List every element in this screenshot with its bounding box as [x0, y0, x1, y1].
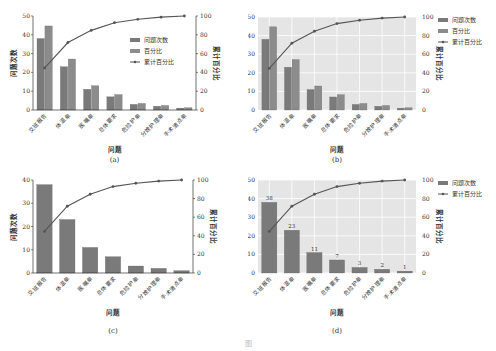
chart-svg: 01020304050020406080100交班报告体温单医嘱单总体要求危险护…	[0, 0, 248, 170]
bar-count	[37, 185, 52, 273]
bar-count	[330, 97, 337, 110]
y-right-axis-label: 累计百分比	[435, 46, 444, 81]
y-right-tick-label: 100	[422, 13, 434, 20]
bar-percent	[161, 105, 168, 110]
bar-count	[375, 106, 382, 110]
x-axis-label: 问题	[330, 145, 344, 154]
bar-count	[352, 104, 359, 110]
legend-bar-swatch	[438, 181, 448, 185]
y-right-tick-label: 20	[197, 250, 205, 257]
x-tick-label: 总体要求	[319, 112, 342, 135]
bar-count	[105, 257, 120, 273]
bar-count	[397, 271, 412, 273]
panel-label: (d)	[332, 327, 342, 335]
bar-count	[262, 39, 269, 110]
x-tick-label: 手术清点单	[382, 112, 409, 139]
y-tick-label: 50	[248, 176, 255, 183]
x-axis-label: 问题	[330, 308, 344, 317]
x-tick-label: 危险护单	[118, 275, 141, 298]
legend-label: 百分比	[452, 27, 470, 35]
y-tick-label: 20	[22, 68, 30, 75]
panel-label: (b)	[332, 156, 342, 164]
y-tick-label: 10	[248, 87, 255, 94]
legend-bar-swatch	[438, 18, 448, 22]
bar-count	[37, 39, 44, 110]
y-right-tick-label: 60	[197, 213, 205, 220]
legend-label: 百分比	[144, 47, 162, 55]
bar-percent	[68, 59, 75, 110]
pareto-chart-b: 01020304050020406080100交班报告体温单医嘱单总体要求危险护…	[248, 0, 496, 170]
bar-count	[151, 268, 166, 273]
y-tick-label: 0	[26, 106, 30, 113]
bar-percent	[360, 103, 367, 110]
y-axis-label: 问题次数	[9, 213, 18, 241]
y-tick-label: 30	[22, 50, 30, 57]
bar-count	[84, 89, 91, 110]
y-tick-label: 40	[22, 176, 30, 183]
chart-svg: 01020304050020406080100交班报告体温单医嘱单总体要求危险护…	[248, 0, 496, 170]
bar-percent	[405, 108, 412, 110]
y-right-tick-label: 80	[422, 32, 430, 39]
y-right-tick-label: 80	[422, 195, 430, 202]
y-tick-label: 50	[22, 12, 30, 19]
bar-count	[284, 67, 291, 110]
y-right-tick-label: 60	[422, 213, 430, 220]
line-marker	[43, 230, 46, 233]
legend-label: 累计百分比	[452, 190, 482, 198]
x-axis-label: 问题	[106, 308, 120, 317]
line-marker	[381, 180, 384, 183]
bar-percent	[138, 103, 145, 110]
line-marker	[43, 67, 46, 70]
line-marker	[313, 193, 316, 196]
line-marker	[157, 180, 160, 183]
y-tick-label: 50	[248, 13, 255, 20]
x-tick-label: 总体要求	[96, 112, 119, 135]
y-right-axis-label: 累计百分比	[209, 209, 218, 244]
bar-count	[397, 108, 404, 110]
legend-label: 问题次数	[452, 179, 476, 187]
y-tick-label: 20	[22, 223, 30, 230]
bar-percent	[382, 106, 389, 110]
panel-label: (a)	[110, 156, 120, 164]
y-right-tick-label: 40	[422, 232, 430, 239]
x-tick-label: 总体要求	[95, 275, 118, 298]
bar-count	[82, 247, 97, 273]
y-right-tick-label: 20	[422, 87, 430, 94]
line-marker	[358, 19, 361, 22]
x-tick-label: 分娩护理单	[139, 112, 166, 139]
line-marker	[183, 15, 186, 18]
line-marker	[112, 185, 115, 188]
y-right-tick-label: 80	[200, 31, 208, 38]
bar-percent	[115, 95, 122, 110]
bar-count	[128, 266, 143, 273]
y-right-tick-label: 80	[197, 195, 205, 202]
x-tick-label: 体温单	[278, 275, 296, 293]
x-tick-label: 体温单	[278, 112, 296, 130]
bar-percent	[92, 86, 99, 110]
data-label: 11	[311, 246, 318, 252]
y-tick-label: 0	[251, 106, 255, 113]
line-marker	[290, 205, 293, 208]
pareto-chart-a: 01020304050020406080100交班报告体温单医嘱单总体要求危险护…	[0, 0, 248, 170]
y-tick-label: 0	[251, 269, 255, 276]
bar-count	[352, 267, 367, 273]
x-tick-label: 交班报告	[251, 112, 274, 135]
x-tick-label: 医嘱单	[300, 275, 318, 293]
x-tick-label: 交班报告	[26, 275, 49, 298]
y-tick-label: 10	[248, 250, 255, 257]
bar-percent	[315, 86, 322, 110]
y-right-tick-label: 20	[200, 87, 208, 94]
y-right-axis-label: 累计百分比	[212, 46, 221, 81]
data-label: 38	[266, 195, 273, 201]
legend-bar-swatch	[130, 49, 140, 53]
x-tick-label: 手术清点单	[159, 275, 186, 302]
line-marker	[381, 17, 384, 20]
data-label: 3	[358, 260, 362, 266]
legend-label: 累计百分比	[452, 38, 482, 46]
line-marker	[134, 182, 137, 185]
data-label: 7	[335, 253, 339, 259]
bar-count	[60, 220, 75, 273]
line-marker	[290, 42, 293, 45]
x-tick-label: 交班报告	[251, 275, 274, 298]
y-tick-label: 10	[22, 87, 30, 94]
